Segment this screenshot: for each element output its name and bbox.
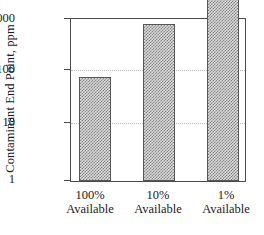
y-axis-title: Contaminant End Point, ppm <box>0 0 20 196</box>
x-tick-label-1-percent-line1: 1% <box>190 188 262 202</box>
x-tick-label-10-percent-line2: Available <box>122 202 194 216</box>
x-tick-label-100-percent: 100% Available <box>54 188 126 216</box>
bar-1-percent-available[interactable] <box>207 0 239 181</box>
x-tick-label-100-percent-line1: 100% <box>54 188 126 202</box>
y-tick-label-1000: 1000 <box>0 12 15 25</box>
bars <box>71 19 245 181</box>
plot-area <box>70 18 246 182</box>
y-axis-title-text: Contaminant End Point, ppm <box>3 24 18 172</box>
bar-10-percent-available[interactable] <box>143 24 175 181</box>
y-tick-label-100: 100 <box>0 63 15 76</box>
x-tick-label-100-percent-line2: Available <box>54 202 126 216</box>
x-tick-label-10-percent: 10% Available <box>122 188 194 216</box>
y-tick-label-1: 1 <box>0 173 15 186</box>
chart-figure: Contaminant End Point, ppm 1000 100 10 1… <box>0 0 264 235</box>
bar-100-percent-available[interactable] <box>79 77 111 181</box>
x-tick-label-10-percent-line1: 10% <box>122 188 194 202</box>
x-tick-label-1-percent: 1% Available <box>190 188 262 216</box>
y-tick-label-10: 10 <box>0 116 15 129</box>
x-tick-label-1-percent-line2: Available <box>190 202 262 216</box>
